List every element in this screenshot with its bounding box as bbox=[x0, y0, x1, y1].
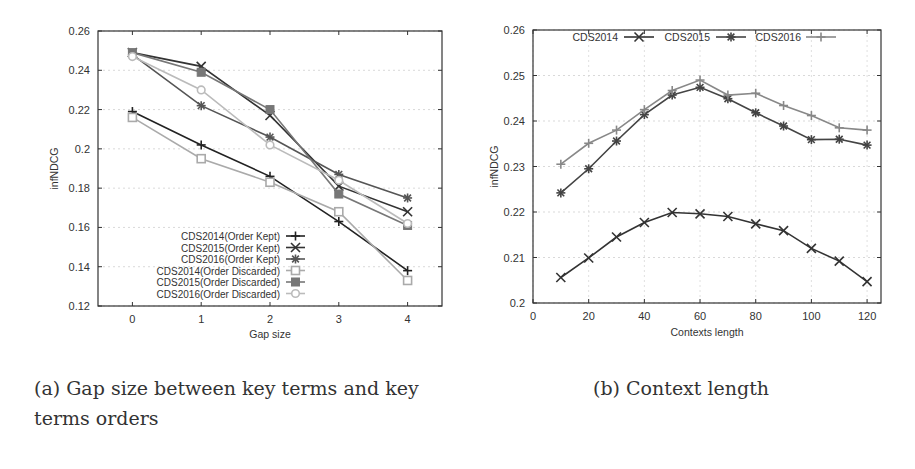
legend-label: CDS2015(Order Kept) bbox=[181, 243, 280, 254]
x-axis-b: 020406080100120 bbox=[530, 30, 876, 322]
y-tick-label: 0.24 bbox=[69, 64, 90, 76]
y-tick-label: 0.22 bbox=[504, 206, 525, 218]
series-cds2014 bbox=[556, 208, 871, 286]
legend-label: CDS2016(Order Discarded) bbox=[157, 289, 280, 300]
y-tick-label: 0.2 bbox=[75, 143, 90, 155]
legend-label: CDS2016 bbox=[755, 31, 801, 43]
legend-label: CDS2014(Order Kept) bbox=[181, 231, 280, 242]
y-tick-label: 0.14 bbox=[69, 261, 90, 273]
legend-a: CDS2014(Order Kept)CDS2015(Order Kept)CD… bbox=[157, 231, 305, 300]
x-tick-label: 4 bbox=[405, 313, 411, 325]
x-tick-label: 120 bbox=[858, 310, 876, 322]
legend-label: CDS2016(Order Kept) bbox=[181, 254, 280, 265]
legend-label: CDS2014(Order Discarded) bbox=[157, 266, 280, 277]
y-axis-label: infNDCG bbox=[48, 147, 60, 189]
x-axis-label: Contexts length bbox=[671, 326, 744, 338]
legend-label: CDS2015 bbox=[664, 31, 710, 43]
y-tick-label: 0.12 bbox=[69, 300, 90, 312]
series-cds2015 bbox=[556, 83, 871, 198]
y-tick-label: 0.26 bbox=[69, 25, 90, 37]
x-tick-label: 1 bbox=[198, 313, 204, 325]
x-tick-label: 80 bbox=[750, 310, 762, 322]
y-tick-label: 0.24 bbox=[504, 115, 525, 127]
x-tick-label: 100 bbox=[802, 310, 820, 322]
y-tick-label: 0.16 bbox=[69, 221, 90, 233]
x-tick-label: 3 bbox=[336, 313, 342, 325]
x-tick-label: 0 bbox=[129, 313, 135, 325]
legend-label: CDS2015(Order Discarded) bbox=[157, 277, 280, 288]
y-axis-label: infNDCG bbox=[488, 145, 500, 187]
x-axis-label: Gap size bbox=[249, 328, 291, 340]
series-cds2015-order-kept- bbox=[128, 48, 412, 216]
figure: 0.120.140.160.180.20.220.240.2601234Gap … bbox=[0, 0, 915, 469]
y-tick-label: 0.26 bbox=[504, 24, 525, 36]
caption-b: (b) Context length bbox=[593, 373, 893, 403]
x-tick-label: 0 bbox=[530, 310, 536, 322]
x-tick-label: 20 bbox=[583, 310, 595, 322]
x-tick-label: 40 bbox=[638, 310, 650, 322]
y-tick-label: 0.23 bbox=[504, 161, 525, 173]
y-tick-label: 0.22 bbox=[69, 104, 90, 116]
x-tick-label: 60 bbox=[694, 310, 706, 322]
y-tick-label: 0.2 bbox=[510, 297, 525, 309]
chart-b: 0.20.210.220.230.240.250.260204060801001… bbox=[488, 24, 881, 338]
legend-label: CDS2014 bbox=[572, 31, 618, 43]
y-tick-label: 0.21 bbox=[504, 252, 525, 264]
x-tick-label: 2 bbox=[267, 313, 273, 325]
chart-a: 0.120.140.160.180.20.220.240.2601234Gap … bbox=[48, 25, 442, 340]
caption-a: (a) Gap size between key terms and key t… bbox=[34, 373, 454, 433]
y-tick-label: 0.18 bbox=[69, 182, 90, 194]
y-tick-label: 0.25 bbox=[504, 70, 525, 82]
legend-b: CDS2014CDS2015CDS2016 bbox=[572, 31, 836, 43]
